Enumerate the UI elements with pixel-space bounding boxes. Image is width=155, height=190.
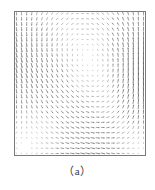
quiver-arrow	[107, 18, 109, 20]
quiver-arrow	[16, 153, 17, 154]
quiver-arrow	[82, 50, 83, 51]
quiver-arrow	[31, 153, 32, 154]
quiver-arrow	[51, 132, 53, 133]
quiver-arrow	[112, 106, 114, 108]
quiver-arrow	[46, 13, 47, 15]
quiver-arrow	[92, 39, 93, 40]
quiver-arrow	[77, 70, 78, 71]
quiver-arrow	[107, 23, 109, 25]
quiver-arrow	[67, 28, 68, 29]
quiver-arrow-head	[26, 24, 27, 25]
quiver-arrow-head	[57, 153, 58, 154]
quiver-arrow	[92, 13, 94, 14]
quiver-arrow	[16, 121, 17, 123]
quiver-arrow	[52, 33, 53, 35]
quiver-arrow	[56, 137, 58, 138]
quiver-arrow	[112, 111, 114, 113]
quiver-arrow	[41, 121, 42, 123]
quiver-arrow	[52, 28, 53, 30]
quiver-arrow	[81, 96, 83, 97]
quiver-arrow	[51, 13, 52, 15]
quiver-arrow	[122, 121, 124, 123]
quiver-arrow	[87, 81, 88, 82]
quiver-arrow	[127, 137, 129, 138]
quiver-arrow	[108, 75, 109, 77]
quiver-arrow	[67, 39, 68, 41]
quiver-arrow	[41, 132, 42, 133]
figure-panel: （a）	[0, 0, 155, 190]
quiver-arrow	[97, 81, 98, 82]
quiver-arrow-head	[41, 40, 42, 41]
quiver-arrow	[92, 50, 93, 51]
quiver-arrow	[108, 54, 109, 56]
quiver-arrow	[138, 132, 139, 134]
quiver-arrow	[36, 132, 37, 133]
quiver-arrow	[107, 85, 108, 87]
quiver-arrow	[107, 106, 109, 107]
quiver-arrow-head	[51, 45, 52, 46]
quiver-arrow-head	[21, 14, 22, 15]
quiver-arrow	[112, 13, 114, 15]
quiver-arrow	[107, 101, 109, 102]
quiver-arrow	[97, 39, 98, 40]
quiver-arrow	[133, 126, 134, 128]
quiver-arrow	[47, 23, 48, 25]
quiver-arrow	[117, 138, 119, 139]
quiver-arrow	[102, 96, 104, 97]
quiver-arrow	[72, 80, 74, 82]
quiver-arrow	[102, 101, 104, 102]
quiver-arrow	[37, 12, 38, 14]
quiver-arrow	[57, 38, 58, 40]
quiver-arrow	[16, 127, 17, 129]
quiver-arrow	[62, 28, 63, 30]
quiver-arrow	[77, 29, 79, 30]
quiver-arrow	[92, 34, 94, 35]
quiver-arrow-head	[108, 137, 109, 138]
quiver-arrow	[41, 12, 42, 14]
quiver-arrow	[133, 132, 134, 134]
quiver-arrow	[77, 44, 78, 45]
quiver-arrow	[62, 59, 63, 61]
quiver-arrow-group	[16, 12, 144, 154]
quiver-arrow	[102, 107, 104, 108]
quiver-arrow	[72, 24, 74, 25]
quiver-arrow	[107, 44, 108, 46]
quiver-arrow	[102, 39, 103, 41]
quiver-arrow	[138, 137, 139, 138]
quiver-arrow	[87, 91, 89, 92]
quiver-arrow	[66, 18, 68, 19]
quiver-arrow	[31, 127, 32, 128]
quiver-arrow	[51, 137, 53, 138]
quiver-arrow	[102, 49, 103, 51]
quiver-arrow	[72, 44, 73, 45]
quiver-arrow	[97, 86, 98, 87]
quiver-arrow	[87, 96, 89, 97]
quiver-arrow	[72, 29, 74, 30]
quiver-arrow	[107, 90, 108, 92]
quiver-arrow	[67, 69, 68, 71]
quiver-arrow	[97, 70, 98, 71]
quiver-arrow	[51, 127, 53, 128]
quiver-arrow	[86, 101, 88, 102]
quiver-arrow	[102, 86, 103, 87]
quiver-arrow	[92, 24, 94, 25]
quiver-arrow	[133, 143, 134, 144]
quiver-arrow	[56, 132, 58, 133]
figure-caption: （a）	[0, 164, 155, 178]
quiver-arrow	[92, 65, 93, 66]
quiver-arrow	[21, 143, 22, 144]
quiver-arrow	[77, 65, 78, 66]
quiver-arrow	[102, 33, 104, 35]
quiver-arrow	[117, 127, 119, 128]
quiver-arrow-head	[112, 64, 113, 65]
quiver-arrow	[127, 127, 129, 129]
quiver-arrow	[67, 64, 68, 66]
quiver-arrow	[31, 111, 32, 113]
quiver-arrow	[112, 101, 114, 103]
quiver-arrow	[51, 143, 53, 144]
quiver-arrow	[31, 121, 32, 123]
quiver-arrow	[46, 116, 48, 118]
quiver-arrow	[72, 34, 73, 35]
quiver-arrow	[102, 28, 104, 30]
quiver-arrow	[67, 59, 68, 61]
